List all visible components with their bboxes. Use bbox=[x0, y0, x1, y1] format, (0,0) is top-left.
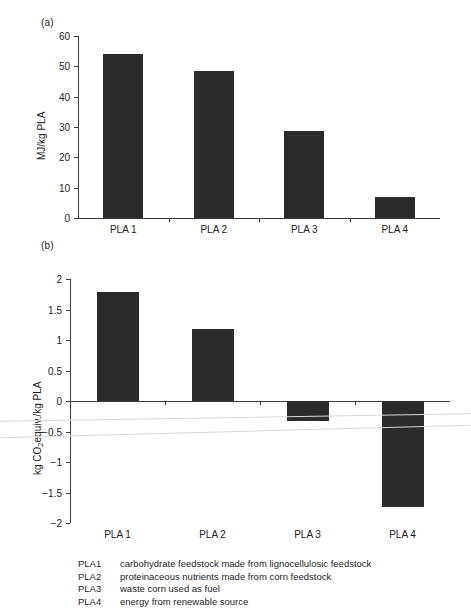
y-axis-tick bbox=[66, 279, 70, 280]
figure-container: (a) 0102030405060PLA 1PLA 2PLA 3PLA 4 MJ… bbox=[0, 0, 471, 610]
y-axis-tick bbox=[66, 340, 70, 341]
y-axis-tick-label: 0 bbox=[24, 396, 62, 407]
legend-row: PLA3 waste corn used as fuel bbox=[78, 583, 468, 596]
y-axis-tick bbox=[66, 310, 70, 311]
bar bbox=[382, 401, 424, 507]
x-axis-category-label: PLA 2 bbox=[199, 529, 226, 540]
y-axis-tick bbox=[66, 493, 70, 494]
y-axis-tick-label: 50 bbox=[32, 61, 70, 72]
legend-row: PLA4 energy from renewable source bbox=[78, 596, 468, 609]
x-axis-category-label: PLA 4 bbox=[389, 529, 416, 540]
x-axis-category-label: PLA 2 bbox=[200, 224, 227, 235]
x-axis-category-label: PLA 1 bbox=[104, 529, 131, 540]
x-axis-category-label: PLA 3 bbox=[291, 224, 318, 235]
x-axis-category-label: PLA 4 bbox=[381, 224, 408, 235]
legend-description: waste corn used as fuel bbox=[120, 583, 468, 596]
y-axis-tick-label: 1.5 bbox=[24, 304, 62, 315]
y-axis-tick bbox=[66, 523, 70, 524]
y-axis-tick-label: −1.5 bbox=[24, 487, 62, 498]
legend-description: energy from renewable source bbox=[120, 596, 468, 609]
legend-key: PLA3 bbox=[78, 583, 120, 596]
bar bbox=[375, 197, 415, 218]
x-axis-tick bbox=[165, 401, 166, 405]
y-axis-tick bbox=[66, 401, 70, 402]
panel-b-y-axis-title: kg CO2equiv./kg PLA bbox=[32, 382, 43, 475]
x-axis-category-label: PLA 1 bbox=[110, 224, 137, 235]
y-axis-tick-label: 1 bbox=[24, 335, 62, 346]
y-axis-tick bbox=[74, 127, 78, 128]
legend-key: PLA1 bbox=[78, 558, 120, 571]
x-axis-category-label: PLA 3 bbox=[294, 529, 321, 540]
legend-description: carbohydrate feedstock made from lignoce… bbox=[120, 558, 468, 571]
x-axis-tick bbox=[355, 401, 356, 405]
bar bbox=[103, 54, 143, 218]
bar bbox=[194, 71, 234, 218]
y-axis-tick bbox=[66, 432, 70, 433]
y-axis-tick-label: 10 bbox=[32, 182, 70, 193]
x-axis-tick bbox=[169, 218, 170, 222]
legend-row: PLA1 carbohydrate feedstock made from li… bbox=[78, 558, 468, 571]
y-axis-tick-label: −0.5 bbox=[24, 426, 62, 437]
y-axis-tick bbox=[74, 188, 78, 189]
y-axis-tick-label: −2 bbox=[24, 518, 62, 529]
y-axis-tick-label: −1 bbox=[24, 457, 62, 468]
y-axis-tick-label: 60 bbox=[32, 31, 70, 42]
legend-row: PLA2 proteinaceous nutrients made from c… bbox=[78, 571, 468, 584]
bar bbox=[287, 401, 329, 421]
x-axis-tick bbox=[350, 218, 351, 222]
y-axis-tick bbox=[66, 462, 70, 463]
bar bbox=[192, 329, 234, 401]
legend-key: PLA2 bbox=[78, 571, 120, 584]
y-axis-tick-label: 2 bbox=[24, 274, 62, 285]
x-axis-tick bbox=[260, 401, 261, 405]
y-axis-line bbox=[78, 36, 79, 218]
bar bbox=[284, 131, 324, 218]
y-axis-tick-label: 0 bbox=[32, 213, 70, 224]
y-axis-tick bbox=[66, 371, 70, 372]
figure-legend: PLA1 carbohydrate feedstock made from li… bbox=[78, 558, 468, 608]
legend-description: proteinaceous nutrients made from corn f… bbox=[120, 571, 468, 584]
x-axis-tick bbox=[259, 218, 260, 222]
panel-a-y-axis-title: MJ/kg PLA bbox=[36, 112, 47, 160]
y-axis-tick bbox=[74, 157, 78, 158]
y-axis-tick-label: 0.5 bbox=[24, 365, 62, 376]
y-axis-tick bbox=[74, 36, 78, 37]
y-axis-tick-label: 40 bbox=[32, 91, 70, 102]
y-axis-tick bbox=[74, 97, 78, 98]
chart-panel-b: −2−1.5−1−0.500.511.52PLA 1PLA 2PLA 3PLA … bbox=[0, 240, 471, 550]
bar bbox=[97, 292, 139, 401]
chart-panel-a: 0102030405060PLA 1PLA 2PLA 3PLA 4 bbox=[0, 0, 471, 240]
legend-key: PLA4 bbox=[78, 596, 120, 609]
y-axis-tick bbox=[74, 218, 78, 219]
y-axis-tick bbox=[74, 66, 78, 67]
